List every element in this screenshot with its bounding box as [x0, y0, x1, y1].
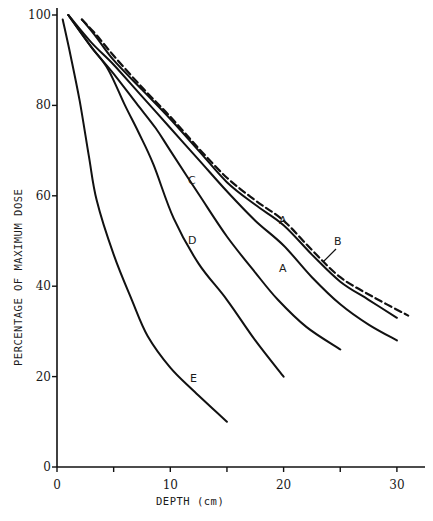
y-tick-label: 80	[36, 98, 51, 112]
plot-area: AABCDE	[63, 15, 409, 422]
y-tick-label: 0	[43, 460, 51, 474]
curve-b	[82, 20, 408, 316]
y-axis: 020406080100	[28, 8, 57, 474]
curve-label-c: C	[188, 174, 196, 187]
x-tick-label: 0	[53, 478, 61, 492]
curve-c	[68, 15, 340, 350]
x-axis: 0102030	[53, 467, 425, 492]
curve-d	[68, 15, 283, 377]
curve-label-d: D	[188, 234, 196, 247]
y-tick-label: 100	[28, 8, 51, 22]
x-tick-label: 20	[276, 478, 291, 492]
y-axis-title: PERCENTAGE OF MAXIMUM DOSE	[12, 189, 24, 366]
curve-label-b: B	[334, 235, 342, 248]
curve-label-a: A	[279, 262, 287, 275]
curve-label-e: E	[190, 372, 197, 385]
y-tick-label: 20	[36, 370, 51, 384]
y-tick-label: 40	[36, 279, 51, 293]
curve-label-a: A	[279, 214, 287, 227]
curve-e	[63, 20, 227, 422]
y-tick-label: 60	[36, 189, 51, 203]
curve-b-pointer	[323, 249, 336, 262]
x-tick-label: 30	[389, 478, 404, 492]
x-axis-title: DEPTH (cm)	[156, 495, 224, 507]
dose-depth-chart: AABCDE 0102030 020406080100 DEPTH (cm) P…	[0, 0, 433, 521]
curve-a-upper	[82, 20, 397, 318]
x-tick-label: 10	[163, 478, 178, 492]
